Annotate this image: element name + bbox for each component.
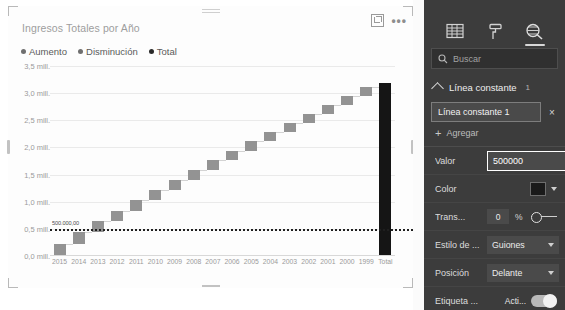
y-axis-tick: 3,5 mill. bbox=[24, 62, 50, 71]
waterfall-bar[interactable] bbox=[303, 114, 315, 123]
transparencia-label: Trans... bbox=[435, 212, 481, 222]
property-row-estilo: Estilo de ... Guiones bbox=[424, 230, 565, 258]
valor-value: 500000 bbox=[493, 156, 523, 166]
y-axis-tick: 0,5 mill. bbox=[24, 224, 50, 233]
color-swatch[interactable] bbox=[530, 182, 546, 196]
focus-mode-icon[interactable] bbox=[371, 14, 384, 27]
waterfall-connector bbox=[334, 105, 341, 106]
legend-item-disminucion[interactable]: Disminución bbox=[78, 46, 138, 57]
waterfall-bar[interactable] bbox=[169, 180, 181, 190]
waterfall-connector bbox=[85, 232, 92, 233]
plus-icon: + bbox=[435, 129, 441, 138]
section-header-linea-constante[interactable]: Línea constante 1 bbox=[424, 79, 565, 95]
y-axis-tick: 3,0 mill. bbox=[24, 89, 50, 98]
waterfall-bar[interactable] bbox=[226, 151, 238, 161]
slider-knob[interactable] bbox=[531, 212, 542, 223]
waterfall-bar[interactable] bbox=[341, 96, 353, 105]
remove-constant-line-button[interactable]: × bbox=[546, 107, 558, 118]
constant-line[interactable] bbox=[50, 229, 413, 231]
waterfall-bar[interactable] bbox=[188, 170, 200, 180]
transparencia-input[interactable]: 0 bbox=[487, 209, 509, 224]
chevron-down-icon bbox=[548, 243, 554, 247]
waterfall-connector bbox=[104, 221, 111, 222]
format-tab[interactable] bbox=[483, 18, 507, 44]
waterfall-connector bbox=[200, 170, 207, 171]
page-title: Ingresos Totales por Año bbox=[22, 22, 140, 34]
x-axis-tick: 2012 bbox=[110, 258, 125, 265]
etiqueta-toggle[interactable] bbox=[531, 295, 557, 307]
waterfall-bar[interactable] bbox=[149, 190, 161, 200]
waterfall-connector bbox=[123, 211, 130, 212]
visual-corner-handle-bottom-left[interactable] bbox=[8, 278, 18, 288]
property-row-valor: Valor 500000 bbox=[424, 146, 565, 174]
visual-resize-handle-bottom[interactable] bbox=[202, 285, 220, 287]
search-icon bbox=[438, 54, 448, 64]
property-row-posicion: Posición Delante bbox=[424, 258, 565, 286]
waterfall-bar[interactable] bbox=[73, 232, 85, 243]
y-axis-tick: 2,0 mill. bbox=[24, 143, 50, 152]
constant-line-name-input[interactable]: Línea constante 1 bbox=[431, 102, 541, 122]
visual-resize-handle-left[interactable] bbox=[7, 140, 10, 154]
x-axis-tick: 2013 bbox=[90, 258, 105, 265]
waterfall-bar[interactable] bbox=[322, 105, 334, 114]
waterfall-connector bbox=[161, 190, 168, 191]
estilo-dropdown[interactable]: Guiones bbox=[487, 236, 559, 254]
waterfall-connector bbox=[296, 123, 303, 124]
gridline bbox=[50, 202, 395, 203]
x-axis-tick: 2015 bbox=[52, 258, 67, 265]
waterfall-bar[interactable] bbox=[264, 132, 276, 141]
waterfall-connector bbox=[257, 141, 264, 142]
chart-baseline bbox=[50, 255, 395, 256]
transparencia-unit: % bbox=[515, 212, 523, 222]
x-axis-labels: 2015201420132012201120102009200820072006… bbox=[50, 258, 405, 272]
visual-corner-handle-top-left[interactable] bbox=[8, 6, 18, 16]
analytics-tab[interactable] bbox=[523, 18, 547, 44]
transparencia-slider[interactable] bbox=[531, 212, 557, 222]
waterfall-bar[interactable] bbox=[360, 87, 372, 96]
waterfall-connector bbox=[142, 200, 149, 201]
screen: ••• Ingresos Totales por Año Aumento Dis… bbox=[0, 0, 565, 310]
waterfall-connector bbox=[238, 151, 245, 152]
add-constant-line-button[interactable]: + Agregar bbox=[435, 128, 565, 138]
x-axis-tick: 2000 bbox=[340, 258, 355, 265]
waterfall-bar[interactable] bbox=[284, 123, 296, 132]
estilo-label: Estilo de ... bbox=[435, 240, 481, 250]
chevron-down-icon[interactable] bbox=[551, 187, 557, 191]
waterfall-bar[interactable] bbox=[130, 200, 142, 210]
y-axis-labels: 0,0 mill.0,5 mill.1,0 mill.1,5 mill.2,0 … bbox=[18, 61, 50, 257]
legend-item-aumento[interactable]: Aumento bbox=[21, 46, 67, 57]
x-axis-tick: 2008 bbox=[186, 258, 201, 265]
canvas-pane-divider bbox=[413, 0, 424, 310]
waterfall-connector bbox=[66, 244, 73, 245]
report-visual-container[interactable]: ••• Ingresos Totales por Año Aumento Dis… bbox=[8, 6, 413, 288]
x-axis-tick: 1999 bbox=[359, 258, 374, 265]
y-axis-tick: 1,0 mill. bbox=[24, 197, 50, 206]
waterfall-bar[interactable] bbox=[245, 141, 257, 151]
fields-tab[interactable] bbox=[443, 18, 467, 44]
property-row-transparencia: Trans... 0 % bbox=[424, 202, 565, 230]
chart-legend: Aumento Disminución Total bbox=[21, 46, 177, 57]
pane-tab-strip bbox=[424, 0, 565, 44]
posicion-dropdown[interactable]: Delante bbox=[487, 264, 559, 282]
x-axis-tick: 2003 bbox=[282, 258, 297, 265]
visual-corner-handle-bottom-right[interactable] bbox=[403, 278, 413, 288]
y-axis-tick: 1,5 mill. bbox=[24, 170, 50, 179]
legend-swatch-disminucion bbox=[78, 49, 83, 54]
visual-resize-handle-top[interactable] bbox=[202, 9, 220, 10]
search-input[interactable]: Buscar bbox=[431, 48, 558, 69]
constant-line-name-value: Línea constante 1 bbox=[438, 107, 510, 117]
valor-input[interactable]: 500000 bbox=[487, 151, 565, 171]
legend-item-total[interactable]: Total bbox=[149, 46, 177, 57]
waterfall-connector bbox=[181, 180, 188, 181]
waterfall-bar[interactable] bbox=[207, 160, 219, 170]
constant-line-name-row: Línea constante 1 × bbox=[431, 102, 558, 122]
waterfall-connector bbox=[315, 114, 322, 115]
more-options-icon[interactable]: ••• bbox=[391, 18, 407, 24]
analytics-pane: Buscar Línea constante 1 Línea constante… bbox=[424, 0, 565, 310]
x-axis-tick: 2014 bbox=[71, 258, 86, 265]
waterfall-bar[interactable] bbox=[111, 211, 123, 222]
posicion-value: Delante bbox=[492, 268, 522, 278]
x-axis-tick: 2001 bbox=[320, 258, 335, 265]
chart-plot-area[interactable]: 500.000,00 bbox=[50, 66, 395, 256]
valor-label: Valor bbox=[435, 156, 481, 166]
